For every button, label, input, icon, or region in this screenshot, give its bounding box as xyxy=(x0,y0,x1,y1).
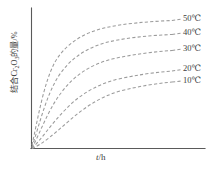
plot-area xyxy=(0,0,212,173)
legend-leader-0 xyxy=(172,19,182,21)
y-axis-label-prefix: 结合Cr xyxy=(10,68,19,92)
legend-item-20c: 20℃ xyxy=(183,64,201,73)
chart-figure: 50℃ 40℃ 30℃ 20℃ 10℃ t/h 结合Cr2O3的量/% xyxy=(0,0,212,173)
curve-series-3 xyxy=(32,71,172,148)
legend-leader-3 xyxy=(172,70,182,72)
legend-leader-2 xyxy=(172,49,182,51)
legend-item-50c: 50℃ xyxy=(183,14,201,23)
curve-series-4 xyxy=(32,82,172,149)
legend-leader-1 xyxy=(172,33,182,35)
legend-leader-4 xyxy=(172,81,182,82)
curve-series-0 xyxy=(32,21,172,146)
x-axis-label: t/h xyxy=(96,152,106,162)
x-axis-label-unit: /h xyxy=(99,152,106,162)
legend-item-40c: 40℃ xyxy=(183,28,201,37)
y-axis-label-sub-2: 2 xyxy=(14,65,20,68)
legend-item-30c: 30℃ xyxy=(183,44,201,53)
y-axis-label: 结合Cr2O3的量/% xyxy=(7,25,19,99)
legend-item-10c: 10℃ xyxy=(183,76,201,85)
curve-series-1 xyxy=(32,35,172,148)
y-axis-label-suffix: 的量/% xyxy=(10,31,19,56)
